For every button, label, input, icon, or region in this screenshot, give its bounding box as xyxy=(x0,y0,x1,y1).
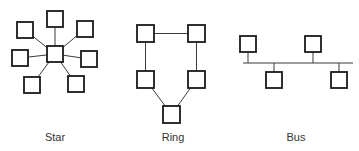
ring-node xyxy=(163,106,180,123)
star-node xyxy=(12,50,28,66)
ring-topology xyxy=(137,25,205,123)
bus-node xyxy=(266,72,282,88)
star-node xyxy=(24,77,40,93)
star-node xyxy=(47,11,63,27)
bus-topology xyxy=(240,36,353,88)
star-label: Star xyxy=(45,131,66,143)
bus-node xyxy=(331,72,347,88)
star-node xyxy=(77,21,93,37)
star-hub-node xyxy=(47,46,63,62)
bus-label: Bus xyxy=(287,131,306,143)
ring-node xyxy=(137,25,154,42)
star-topology xyxy=(12,11,97,93)
ring-node xyxy=(188,25,205,42)
star-node xyxy=(17,22,33,38)
bus-node xyxy=(240,36,256,52)
network-topology-diagram: Star Ring Bus xyxy=(0,0,359,151)
star-node xyxy=(81,51,97,67)
star-node xyxy=(68,76,84,92)
ring-label: Ring xyxy=(162,131,185,143)
ring-node xyxy=(137,71,154,88)
ring-node xyxy=(188,71,205,88)
bus-node xyxy=(305,36,321,52)
